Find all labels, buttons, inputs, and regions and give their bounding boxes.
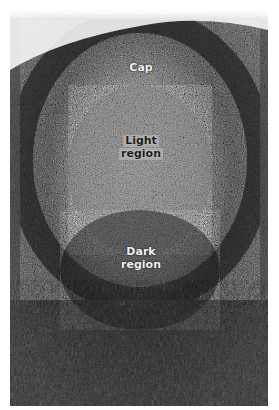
dark-region-label-line1: Dark <box>126 246 155 258</box>
cap-label: Cap <box>129 62 152 74</box>
light-region-label-line1: Light <box>123 135 159 147</box>
light-region-label-line2: region <box>119 148 163 160</box>
dark-region-label-line2: region <box>121 259 161 271</box>
